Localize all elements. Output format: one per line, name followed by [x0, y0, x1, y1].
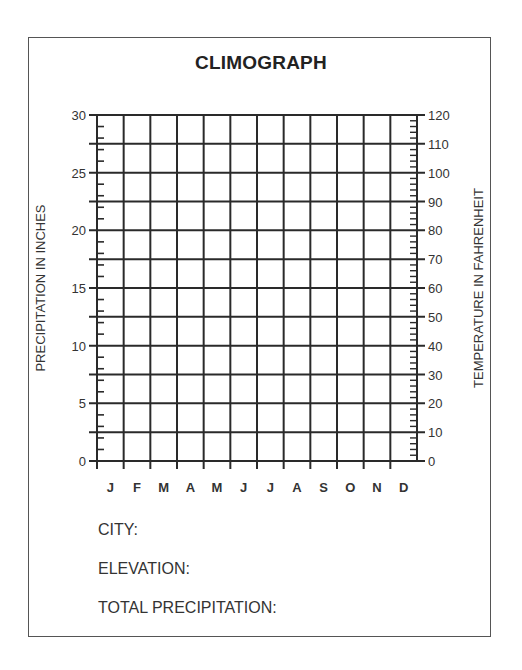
month-label: F [133, 480, 141, 495]
month-label: J [240, 480, 247, 495]
right-tick-label: 20 [428, 396, 442, 411]
right-tick-label: 30 [428, 368, 442, 383]
left-tick-label: 10 [72, 339, 86, 354]
right-tick-label: 40 [428, 339, 442, 354]
left-axis-label: PRECIPITATION IN INCHES [33, 204, 48, 371]
right-tick-label: 10 [428, 425, 442, 440]
right-tick-label: 120 [428, 108, 450, 123]
right-tick-label: 50 [428, 310, 442, 325]
climograph-grid: 0510152025300102030405060708090100110120… [0, 0, 522, 670]
month-label: M [212, 480, 223, 495]
left-tick-label: 25 [72, 166, 86, 181]
left-tick-label: 5 [79, 396, 86, 411]
left-tick-label: 30 [72, 108, 86, 123]
city-field-label: CITY: [98, 521, 138, 539]
right-tick-label: 100 [428, 166, 450, 181]
month-label: A [292, 480, 302, 495]
month-label: J [267, 480, 274, 495]
left-tick-label: 20 [72, 223, 86, 238]
month-label: A [186, 480, 196, 495]
right-tick-label: 80 [428, 223, 442, 238]
right-tick-label: 0 [428, 454, 435, 469]
month-label: N [372, 480, 381, 495]
left-tick-label: 0 [79, 454, 86, 469]
right-tick-label: 90 [428, 195, 442, 210]
right-tick-label: 70 [428, 252, 442, 267]
month-label: J [107, 480, 114, 495]
total-precipitation-field-label: TOTAL PRECIPITATION: [98, 599, 277, 617]
right-tick-label: 60 [428, 281, 442, 296]
left-tick-label: 15 [72, 281, 86, 296]
right-tick-label: 110 [428, 137, 449, 152]
month-label: D [399, 480, 408, 495]
month-label: O [345, 480, 355, 495]
elevation-field-label: ELEVATION: [98, 560, 190, 578]
month-label: S [319, 480, 328, 495]
right-axis-label: TEMPERATURE IN FAHRENHEIT [471, 188, 486, 388]
month-label: M [158, 480, 169, 495]
